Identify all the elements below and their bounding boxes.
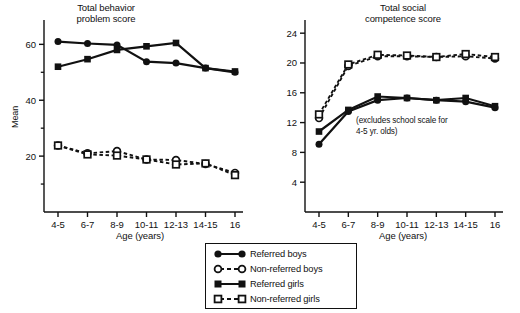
legend-label-non-referred-boys: Non-referred boys <box>250 264 322 274</box>
marker-filled-square <box>55 63 62 70</box>
legend-label-non-referred-girls: Non-referred girls <box>250 294 320 304</box>
y-tick-label: 24 <box>286 28 297 39</box>
y-tick-label: 20 <box>25 151 36 162</box>
x-tick-label: 6-7 <box>341 219 355 230</box>
chart-total-social-competence-score: 48121620244-56-78-910-1112-1314-1516 <box>286 20 503 230</box>
x-tick-label: 12-13 <box>164 219 188 230</box>
legend-symbol-filled-square-solid <box>212 277 248 291</box>
legend-symbol-filled-circle-solid <box>212 247 248 261</box>
marker-filled-square <box>202 65 209 72</box>
marker-open-square <box>114 152 121 159</box>
legend-item-referred-boys: Referred boys <box>212 246 306 261</box>
marker-open-square <box>202 160 209 167</box>
x-tick-label: 4-5 <box>51 219 65 230</box>
y-tick-label: 20 <box>286 57 297 68</box>
marker-open-square <box>232 172 239 179</box>
marker-filled-square <box>316 128 323 135</box>
marker-open-square <box>143 156 150 163</box>
chart-total-behavior-problem-score: 2040604-56-78-910-1112-1314-1516 <box>25 20 243 230</box>
marker-filled-square <box>232 68 239 75</box>
marker-filled-square <box>492 103 499 110</box>
marker-open-square <box>433 54 440 61</box>
marker-open-square <box>84 151 91 158</box>
x-tick-label: 14-15 <box>454 219 478 230</box>
x-tick-label: 4-5 <box>312 219 326 230</box>
marker-filled-square <box>114 47 121 54</box>
y-tick-label: 8 <box>292 147 297 158</box>
marker-filled-square <box>374 93 381 100</box>
marker-filled-square <box>143 43 150 50</box>
y-tick-label: 16 <box>286 87 297 98</box>
marker-open-square <box>345 61 352 68</box>
figure-root: Total behavior problem score Mean Age (y… <box>0 0 520 313</box>
marker-filled-circle <box>55 38 62 45</box>
x-tick-label: 14-15 <box>193 219 217 230</box>
y-tick-label: 12 <box>286 117 297 128</box>
x-tick-label: 16 <box>230 219 241 230</box>
x-tick-label: 8-9 <box>110 219 124 230</box>
y-tick-label: 60 <box>25 39 36 50</box>
legend-label-referred-boys: Referred boys <box>250 249 306 259</box>
x-tick-label: 12-13 <box>424 219 448 230</box>
marker-filled-square <box>433 97 440 104</box>
marker-filled-square <box>173 40 180 47</box>
x-tick-label: 10-11 <box>135 219 159 230</box>
series-line-referred-boys <box>319 98 495 144</box>
x-tick-label: 10-11 <box>395 219 419 230</box>
legend-item-referred-girls: Referred girls <box>212 276 304 291</box>
x-tick-label: 8-9 <box>371 219 385 230</box>
legend-symbol-open-circle-dashed <box>212 262 248 276</box>
marker-filled-circle <box>84 40 91 47</box>
legend-label-referred-girls: Referred girls <box>250 279 304 289</box>
marker-filled-square <box>84 56 91 63</box>
marker-filled-circle <box>316 141 323 148</box>
marker-open-square <box>374 51 381 58</box>
x-tick-label: 16 <box>490 219 501 230</box>
legend-item-non-referred-boys: Non-referred boys <box>212 261 322 276</box>
legend-symbol-open-square-dashed <box>212 292 248 306</box>
marker-filled-circle <box>173 60 180 67</box>
legend-item-non-referred-girls: Non-referred girls <box>212 291 320 306</box>
x-tick-label: 6-7 <box>81 219 95 230</box>
marker-filled-square <box>345 107 352 114</box>
marker-open-square <box>462 51 469 58</box>
marker-open-square <box>55 142 62 149</box>
marker-open-square <box>492 54 499 61</box>
y-tick-label: 4 <box>292 177 297 188</box>
series-legend: Referred boys Non-referred boys Referred… <box>205 243 357 309</box>
marker-filled-circle <box>143 58 150 65</box>
marker-open-square <box>316 111 323 118</box>
marker-open-square <box>404 52 411 59</box>
marker-open-square <box>173 161 180 168</box>
marker-filled-square <box>462 95 469 102</box>
y-tick-label: 40 <box>25 95 36 106</box>
marker-filled-square <box>404 95 411 102</box>
